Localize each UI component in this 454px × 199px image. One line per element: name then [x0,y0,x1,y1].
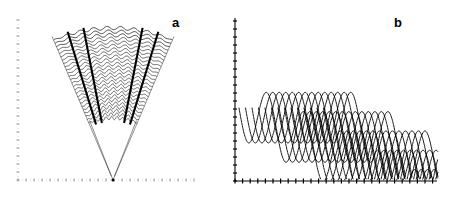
panel-a-apex-line [113,120,136,180]
panel-a-arc [55,30,171,43]
panel-a-apex-line [90,120,113,180]
panel-a-arc [56,34,169,47]
panel-b-y-axis [233,18,237,181]
panel-b-plot [227,0,454,199]
panel-b-x-axis [235,179,437,184]
panel-b: b [227,0,454,199]
panel-a-plot [0,0,227,199]
panel-a-arc [66,59,159,70]
panel-b-label: b [394,16,402,29]
panel-a-bold-ray [68,32,96,125]
panel-a: a [0,0,227,199]
panel-a-label: a [172,16,179,29]
panel-a-apex-point [112,179,115,182]
panel-a-apex-lines [90,120,137,181]
figure-canvas: a b [0,0,454,199]
panel-a-arc [68,62,159,73]
panel-a-y-axis [16,20,19,180]
panel-b-curve-group [239,92,438,180]
panel-a-x-axis [18,178,194,181]
panel-a-arc [59,41,167,54]
